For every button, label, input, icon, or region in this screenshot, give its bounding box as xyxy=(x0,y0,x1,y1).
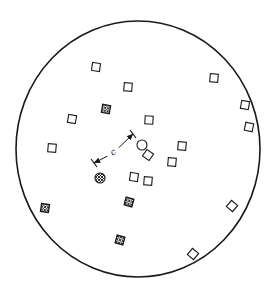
open-square-marker xyxy=(210,74,219,83)
hatched-square-markers xyxy=(40,104,133,245)
hatched-square-marker xyxy=(124,197,134,207)
open-square-marker xyxy=(240,100,249,109)
open-square-marker xyxy=(124,83,133,92)
particle-distribution-diagram: c xyxy=(0,0,275,294)
open-square-marker xyxy=(168,158,177,167)
dimension-arrow-end xyxy=(94,156,107,163)
open-square-marker xyxy=(187,248,198,259)
open-square-markers xyxy=(48,62,254,259)
open-square-marker xyxy=(144,177,153,186)
open-square-marker xyxy=(67,114,76,123)
open-square-marker xyxy=(91,62,100,71)
open-square-marker xyxy=(226,200,237,211)
dimension-label: c xyxy=(108,146,118,157)
hatched-circle-marker xyxy=(95,173,105,183)
open-square-marker xyxy=(48,144,57,153)
dimension-tick-start xyxy=(130,130,136,138)
open-square-marker xyxy=(142,149,153,160)
hatched-square-marker xyxy=(40,203,49,212)
open-square-marker xyxy=(145,116,153,124)
open-circle-marker xyxy=(137,140,147,150)
dimension-tick-end xyxy=(91,159,97,167)
open-square-marker xyxy=(178,142,187,151)
open-square-marker xyxy=(244,122,253,131)
open-square-marker xyxy=(129,172,138,181)
hatched-square-marker xyxy=(101,104,110,113)
dimension-line: c xyxy=(91,130,136,167)
dimension-arrow-start xyxy=(119,134,133,148)
hatched-square-marker xyxy=(115,235,125,245)
